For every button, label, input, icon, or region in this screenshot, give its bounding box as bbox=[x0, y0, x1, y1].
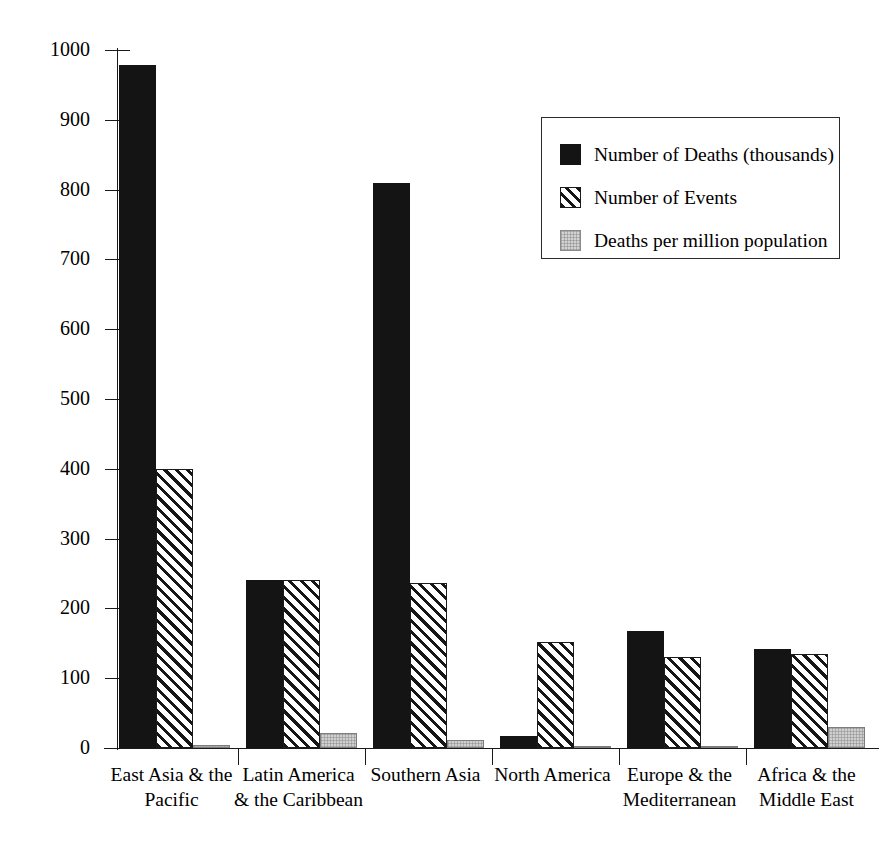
bar bbox=[500, 736, 537, 748]
bar bbox=[664, 657, 701, 748]
y-tick-label: 700 bbox=[28, 248, 90, 268]
y-tick-label: 200 bbox=[28, 597, 90, 617]
y-tick-label: 800 bbox=[28, 179, 90, 199]
y-tick-label: 300 bbox=[28, 528, 90, 548]
bar-group bbox=[117, 50, 244, 748]
legend-item: Number of Events bbox=[560, 177, 839, 217]
bar bbox=[373, 183, 410, 748]
legend-label-deaths-per-million: Deaths per million population bbox=[594, 230, 827, 251]
bar bbox=[447, 740, 484, 748]
chart-legend: Number of Deaths (thousands) Number of E… bbox=[541, 117, 840, 259]
bar-group bbox=[244, 50, 371, 748]
legend-item: Number of Deaths (thousands) bbox=[560, 134, 839, 174]
y-tick-label: 900 bbox=[28, 109, 90, 129]
bar bbox=[283, 580, 320, 748]
bar bbox=[537, 642, 574, 748]
y-tick-label: 100 bbox=[28, 667, 90, 687]
bar bbox=[627, 631, 664, 748]
bar bbox=[119, 65, 156, 748]
legend-swatch-deaths bbox=[560, 144, 581, 165]
category-label: North America bbox=[484, 762, 621, 787]
legend-item: Deaths per million population bbox=[560, 220, 839, 260]
legend-swatch-deaths-per-million bbox=[560, 230, 581, 251]
legend-swatch-events bbox=[560, 187, 581, 208]
y-tick-label: 500 bbox=[28, 388, 90, 408]
bar-group bbox=[371, 50, 498, 748]
y-tick-label: 400 bbox=[28, 458, 90, 478]
bar-chart: 01002003004005006007008009001000 East As… bbox=[0, 0, 884, 854]
bar bbox=[754, 649, 791, 748]
bar bbox=[246, 580, 283, 748]
category-label: East Asia & the Pacific bbox=[103, 762, 240, 812]
y-tick-mark bbox=[105, 748, 130, 749]
bar bbox=[828, 727, 865, 748]
legend-label-deaths: Number of Deaths (thousands) bbox=[594, 144, 834, 165]
bar bbox=[574, 746, 611, 748]
category-label: Africa & the Middle East bbox=[738, 762, 875, 812]
legend-label-events: Number of Events bbox=[594, 187, 737, 208]
y-tick-label: 0 bbox=[28, 737, 90, 757]
category-label: Southern Asia bbox=[357, 762, 494, 787]
y-tick: 0 bbox=[0, 748, 884, 749]
bar bbox=[193, 745, 230, 748]
category-label: Latin America & the Caribbean bbox=[230, 762, 367, 812]
bar bbox=[156, 469, 193, 748]
bar bbox=[410, 583, 447, 748]
y-tick-label: 600 bbox=[28, 318, 90, 338]
category-label: Europe & the Mediterranean bbox=[611, 762, 748, 812]
bar bbox=[701, 746, 738, 748]
bar bbox=[320, 733, 357, 748]
y-tick-label: 1000 bbox=[28, 39, 90, 59]
bar bbox=[791, 654, 828, 748]
